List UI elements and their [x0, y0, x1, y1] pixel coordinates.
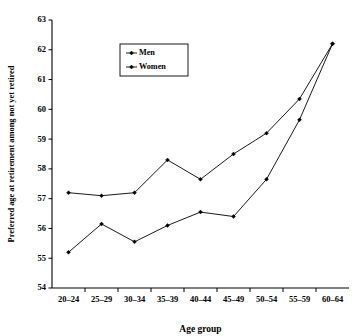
y-tick-label: 61	[38, 74, 47, 84]
y-tick-label: 55	[38, 253, 47, 263]
data-point-women-7	[298, 118, 302, 122]
x-tick-label: 55–59	[289, 294, 310, 304]
x-tick-label: 25–29	[91, 294, 112, 304]
x-tick-label: 45–49	[223, 294, 244, 304]
x-tick-label: 60–64	[322, 294, 344, 304]
data-point-women-4	[199, 210, 203, 214]
y-tick-label: 62	[38, 44, 47, 54]
chart-figure: 5455565758596061626320–2425–2930–3435–39…	[0, 0, 359, 336]
y-axis-title: Preferred age at retirement among not ye…	[7, 65, 16, 242]
x-tick-label: 30–34	[124, 294, 146, 304]
x-tick-label: 35–39	[157, 294, 178, 304]
data-point-men-0	[67, 191, 71, 195]
x-tick-label: 40–44	[190, 294, 212, 304]
x-axis-title: Age group	[179, 324, 221, 334]
data-point-women-2	[133, 240, 137, 244]
x-tick-label: 20–24	[58, 294, 80, 304]
y-tick-label: 60	[38, 104, 47, 114]
line-chart: 5455565758596061626320–2425–2930–3435–39…	[0, 0, 359, 336]
y-tick-label: 57	[38, 193, 47, 203]
data-point-women-8	[331, 42, 335, 46]
y-tick-label: 59	[38, 134, 47, 144]
legend-label-men: Men	[139, 48, 155, 57]
data-point-men-1	[100, 194, 104, 198]
legend-label-women: Women	[139, 62, 166, 71]
series-line-men	[69, 44, 333, 196]
x-tick-label: 50–54	[256, 294, 278, 304]
data-point-women-3	[166, 223, 170, 227]
series-line-women	[69, 44, 333, 252]
y-tick-label: 56	[38, 223, 47, 233]
y-tick-label: 54	[38, 282, 47, 292]
y-tick-label: 58	[38, 163, 47, 173]
y-tick-label: 63	[38, 14, 47, 24]
